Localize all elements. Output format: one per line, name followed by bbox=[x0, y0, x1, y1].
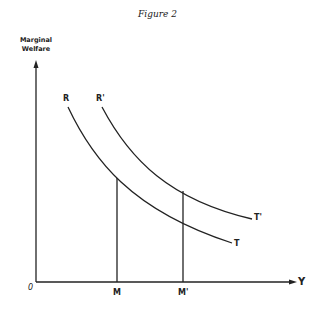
x-axis-arrow-icon bbox=[289, 280, 297, 285]
curve-label-t: T bbox=[234, 239, 239, 248]
marker-label-m: M bbox=[113, 288, 121, 297]
curve-label-r: R bbox=[63, 94, 69, 103]
x-axis-label: Y bbox=[298, 276, 305, 287]
curve-label-t-prime: T' bbox=[254, 213, 262, 222]
y-axis-arrow-icon bbox=[34, 60, 39, 68]
marker-label-m-prime: M' bbox=[178, 288, 188, 297]
diagram-canvas bbox=[0, 0, 315, 314]
curve-r-prime-t-prime bbox=[102, 107, 252, 219]
curve-label-r-prime: R' bbox=[96, 94, 105, 103]
origin-label: 0 bbox=[28, 283, 33, 292]
figure-2-diagram: Figure 2 Marginal Welfare 0 Y R T R' T' … bbox=[0, 0, 315, 314]
curve-rt bbox=[68, 107, 232, 243]
